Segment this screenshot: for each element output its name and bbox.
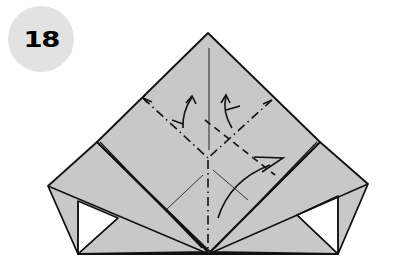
origami-diagram bbox=[0, 0, 394, 267]
